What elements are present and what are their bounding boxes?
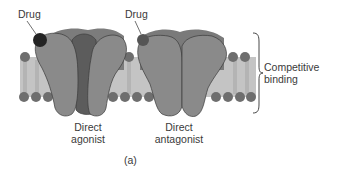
brace-label-line2: binding (264, 73, 319, 85)
drug-antagonist-molecule (135, 21, 149, 46)
drug-label-agonist: Drug (18, 8, 41, 20)
receptor-label-antagonist: Direct antagonist (148, 121, 210, 145)
panel-label: (a) (124, 154, 137, 166)
receptor-agonist (35, 28, 126, 116)
drug-agonist-molecule (27, 21, 47, 47)
brace-label-line1: Competitive (264, 61, 319, 73)
diagram-canvas (0, 0, 340, 171)
receptor-label-antagonist-line2: antagonist (148, 133, 210, 145)
receptor-label-agonist-line2: agonist (58, 133, 118, 145)
receptor-label-antagonist-line1: Direct (148, 121, 210, 133)
receptor-label-agonist: Direct agonist (58, 121, 118, 145)
receptor-label-agonist-line1: Direct (58, 121, 118, 133)
brace-label: Competitive binding (264, 61, 319, 85)
drug-label-antagonist: Drug (125, 8, 148, 20)
receptor-antagonist (138, 30, 227, 117)
